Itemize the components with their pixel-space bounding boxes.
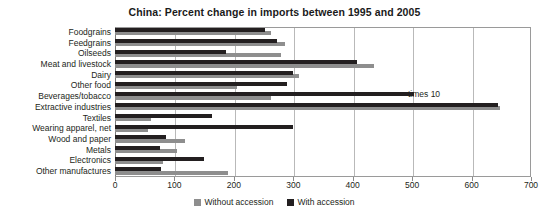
chart-bar-group bbox=[115, 102, 531, 113]
legend-label: Without accession bbox=[204, 197, 273, 207]
chart-bar-group bbox=[115, 113, 531, 124]
bar-with-accession bbox=[115, 92, 414, 96]
chart-bar-group bbox=[115, 123, 531, 134]
x-tick-label: 200 bbox=[227, 180, 241, 190]
x-tick-label: 400 bbox=[346, 180, 360, 190]
category-label: Wood and paper bbox=[0, 135, 111, 144]
category-axis-labels: FoodgrainsFeedgrainsOilseedsMeat and liv… bbox=[0, 27, 111, 177]
category-label: Feedgrains bbox=[0, 39, 111, 48]
category-label: Other manufactures bbox=[0, 167, 111, 176]
bars-layer bbox=[115, 27, 531, 177]
chart-bar-group bbox=[115, 145, 531, 156]
bar-with-accession bbox=[115, 167, 161, 171]
legend-label: With accession bbox=[297, 197, 354, 207]
category-label: Textiles bbox=[0, 114, 111, 123]
bar-with-accession bbox=[115, 28, 265, 32]
chart-annotation: times 10 bbox=[408, 89, 440, 99]
bar-with-accession bbox=[115, 71, 293, 75]
bar-with-accession bbox=[115, 39, 277, 43]
category-label: Dairy bbox=[0, 71, 111, 80]
x-tick-label: 600 bbox=[464, 180, 478, 190]
bar-with-accession bbox=[115, 114, 212, 118]
x-tick-label: 300 bbox=[286, 180, 300, 190]
bar-with-accession bbox=[115, 157, 204, 161]
chart-bar-group bbox=[115, 91, 531, 102]
bar-with-accession bbox=[115, 103, 498, 107]
category-label: Other food bbox=[0, 81, 111, 90]
chart-bar-group bbox=[115, 59, 531, 70]
chart-bar-group bbox=[115, 134, 531, 145]
category-label: Foodgrains bbox=[0, 28, 111, 37]
bar-with-accession bbox=[115, 60, 357, 64]
category-label: Beverages/tobacco bbox=[0, 92, 111, 101]
chart-bar-group bbox=[115, 38, 531, 49]
chart-legend: Without accessionWith accession bbox=[0, 195, 549, 209]
chart-bar-group bbox=[115, 81, 531, 92]
x-axis-labels: 0100200300400500600700 bbox=[0, 180, 549, 192]
category-label: Metals bbox=[0, 146, 111, 155]
legend-swatch-icon bbox=[287, 199, 294, 206]
x-tick-label: 0 bbox=[113, 180, 118, 190]
category-label: Wearing apparel, net bbox=[0, 124, 111, 133]
x-tick-label: 500 bbox=[405, 180, 419, 190]
legend-item[interactable]: With accession bbox=[287, 197, 354, 207]
category-label: Extractive industries bbox=[0, 103, 111, 112]
chart-bar-group bbox=[115, 156, 531, 167]
bar-with-accession bbox=[115, 125, 293, 129]
chart-bar-group bbox=[115, 27, 531, 38]
bar-with-accession bbox=[115, 50, 226, 54]
legend-swatch-icon bbox=[194, 199, 201, 206]
legend-item[interactable]: Without accession bbox=[194, 197, 273, 207]
bar-with-accession bbox=[115, 135, 166, 139]
category-label: Electronics bbox=[0, 156, 111, 165]
bar-with-accession bbox=[115, 82, 287, 86]
x-tick-label: 100 bbox=[167, 180, 181, 190]
category-label: Meat and livestock bbox=[0, 60, 111, 69]
chart-bar-group bbox=[115, 48, 531, 59]
x-tick-label: 700 bbox=[524, 180, 538, 190]
chart-container: China: Percent change in imports between… bbox=[0, 0, 549, 211]
chart-title: China: Percent change in imports between… bbox=[0, 6, 549, 18]
bar-with-accession bbox=[115, 146, 160, 150]
chart-bar-group bbox=[115, 166, 531, 177]
chart-bar-group bbox=[115, 70, 531, 81]
category-label: Oilseeds bbox=[0, 49, 111, 58]
